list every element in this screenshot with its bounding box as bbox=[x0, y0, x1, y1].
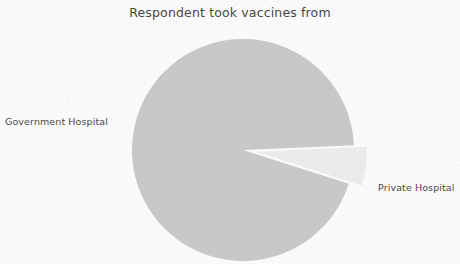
pie-chart-figure: Respondent took vaccines from Government… bbox=[0, 0, 460, 264]
pie-label-government-hospital: Government Hospital bbox=[5, 116, 108, 127]
grain-texture-overlay bbox=[0, 0, 460, 264]
pie-chart-canvas bbox=[0, 0, 460, 264]
pie-label-private-hospital: Private Hospital bbox=[378, 182, 455, 193]
